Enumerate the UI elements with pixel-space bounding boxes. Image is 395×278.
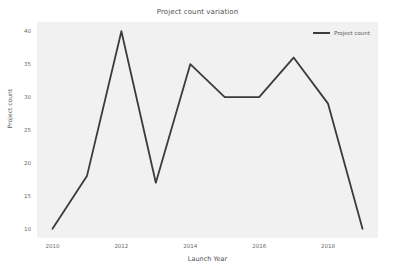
x-tick-label: 2010	[46, 243, 60, 249]
x-tick-label: 2018	[321, 243, 335, 249]
x-axis-tick-labels: 20102012201420162018	[37, 243, 378, 255]
chart-title: Project count variation	[0, 8, 395, 16]
x-tick-label: 2016	[252, 243, 266, 249]
y-tick-label: 40	[24, 28, 31, 34]
y-tick-label: 15	[24, 193, 31, 199]
chart-figure: Project count variation Project count 10…	[0, 0, 395, 278]
legend-line-swatch-icon	[313, 32, 330, 34]
y-tick-label: 10	[24, 226, 31, 232]
plot-area: Project count	[37, 22, 378, 238]
chart-legend: Project count	[309, 28, 374, 38]
x-tick-label: 2014	[183, 243, 197, 249]
y-axis-tick-labels: 10152025303540	[0, 22, 35, 238]
x-tick-label: 2012	[114, 243, 128, 249]
line-series-svg	[37, 22, 378, 238]
y-tick-label: 25	[24, 127, 31, 133]
y-tick-label: 30	[24, 94, 31, 100]
y-tick-label: 35	[24, 61, 31, 67]
legend-label: Project count	[334, 30, 370, 36]
x-axis-label: Launch Year	[37, 255, 378, 263]
y-tick-label: 20	[24, 160, 31, 166]
series-line-project-count	[53, 31, 363, 229]
